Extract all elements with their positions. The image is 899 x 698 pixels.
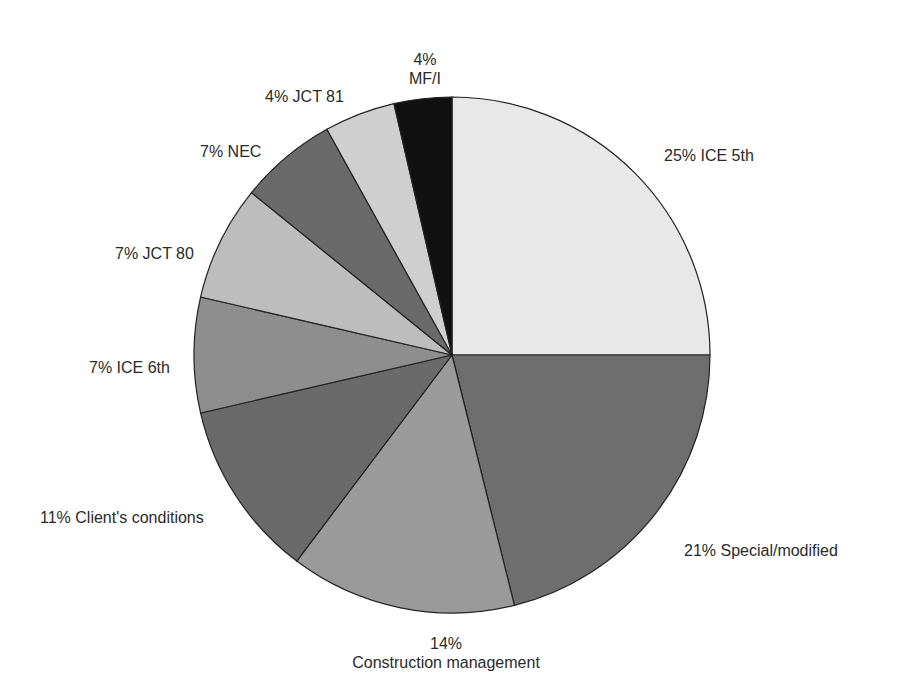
label-mf-i-pct: 4% xyxy=(400,50,450,69)
pie-slice-ice-5th xyxy=(452,97,710,355)
label-mf-i-name: MF/I xyxy=(400,69,450,88)
pie-chart xyxy=(0,0,899,698)
label-clients-conditions: 11% Client's conditions xyxy=(40,508,204,527)
label-mf-i: 4% MF/I xyxy=(400,50,450,88)
label-jct-80: 7% JCT 80 xyxy=(115,244,194,263)
label-nec: 7% NEC xyxy=(200,142,261,161)
label-jct-81: 4% JCT 81 xyxy=(265,87,344,106)
pie-slices xyxy=(194,97,710,613)
label-special-modified: 21% Special/modified xyxy=(684,541,838,560)
label-construction-management: 14% Construction management xyxy=(331,634,561,672)
label-ice-6th: 7% ICE 6th xyxy=(89,358,170,377)
label-construction-management-name: Construction management xyxy=(331,653,561,672)
label-ice-5th: 25% ICE 5th xyxy=(664,146,754,165)
label-construction-management-pct: 14% xyxy=(331,634,561,653)
